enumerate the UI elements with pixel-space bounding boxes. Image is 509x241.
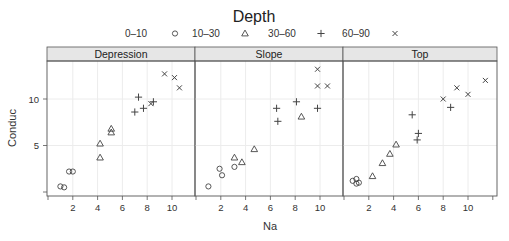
panel-depression: Depression246810510: [28, 47, 195, 213]
data-point: [454, 85, 459, 90]
y-axis-label: Conduc: [6, 109, 18, 147]
data-point: [325, 83, 330, 88]
data-point: [315, 67, 320, 72]
x-tick-label: 6: [120, 202, 125, 213]
data-point: [172, 75, 177, 80]
cross-icon: [393, 31, 398, 36]
legend-label: 30–60: [268, 28, 296, 39]
data-point: [387, 150, 394, 156]
data-point: [251, 146, 258, 152]
panel-slope: Slope246810: [195, 47, 343, 213]
circle-icon: [172, 31, 177, 36]
strip-label: Depression: [94, 48, 147, 60]
data-point: [409, 111, 416, 118]
x-tick-label: 8: [441, 202, 446, 213]
data-point: [231, 154, 238, 160]
x-tick-label: 10: [167, 202, 178, 213]
data-point: [58, 184, 63, 189]
data-point: [140, 105, 147, 112]
chart-title: Depth: [233, 8, 276, 25]
x-tick-label: 4: [243, 202, 248, 213]
panels: Depression246810510Slope246810Top246810: [28, 47, 497, 213]
y-tick-label: 10: [28, 94, 39, 105]
data-point: [239, 159, 246, 165]
data-point: [219, 173, 224, 178]
data-point: [379, 160, 386, 166]
x-tick-label: 10: [315, 202, 326, 213]
x-tick-label: 2: [70, 202, 75, 213]
x-tick-label: 6: [416, 202, 421, 213]
data-point: [298, 113, 305, 119]
x-tick-label: 2: [366, 202, 371, 213]
data-point: [315, 83, 320, 88]
legend-label: 0–10: [125, 28, 148, 39]
panel-top: Top246810: [343, 47, 497, 213]
x-tick-label: 8: [293, 202, 298, 213]
x-tick-label: 8: [145, 202, 150, 213]
triangle-icon: [242, 30, 249, 36]
x-tick-label: 4: [391, 202, 396, 213]
data-point: [447, 104, 454, 111]
data-point: [162, 71, 167, 76]
y-tick-label: 5: [34, 140, 39, 151]
strip-label: Slope: [256, 48, 283, 60]
x-axis-label: Na: [263, 220, 278, 232]
data-point: [135, 94, 142, 101]
data-point: [415, 130, 422, 137]
x-tick-label: 4: [95, 202, 100, 213]
data-point: [414, 136, 421, 143]
legend-label: 10–30: [192, 28, 220, 39]
x-tick-label: 6: [268, 202, 273, 213]
data-point: [483, 78, 488, 83]
data-point: [131, 108, 138, 115]
legend-label: 60–90: [342, 28, 370, 39]
data-point: [369, 173, 376, 179]
strip-label: Top: [412, 48, 429, 60]
data-point: [217, 166, 222, 171]
chart: Depth 0–1010–3030–6060–90 Depression2468…: [0, 0, 509, 241]
x-tick-label: 2: [218, 202, 223, 213]
legend: 0–1010–3030–6060–90: [125, 28, 398, 39]
data-point: [177, 85, 182, 90]
data-point: [274, 118, 281, 125]
plus-icon: [317, 30, 324, 37]
data-point: [232, 164, 237, 169]
data-point: [62, 185, 67, 190]
x-tick-label: 10: [463, 202, 474, 213]
data-point: [273, 105, 280, 112]
data-point: [206, 184, 211, 189]
